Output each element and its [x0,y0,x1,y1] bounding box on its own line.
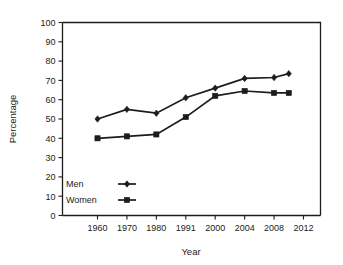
x-axis-title: Year [181,246,200,257]
data-point [271,90,276,95]
plot-frame [63,23,321,216]
legend-sample-marker-square [124,197,129,202]
data-point [242,75,247,81]
x-tick-label: 2004 [235,223,255,233]
data-point [242,88,247,93]
legend-label-women: Women [66,195,97,205]
y-tick-label: 20 [45,172,55,182]
data-point [154,110,159,116]
data-point [183,114,188,119]
y-axis-title: Percentage [7,95,18,144]
chart-canvas: 0102030405060708090100 19601970198019912… [0,0,343,265]
y-axis-ticks: 0102030405060708090100 [40,18,62,221]
y-tick-label: 30 [45,153,55,163]
x-tick-label: 2012 [293,223,313,233]
y-tick-label: 60 [45,95,55,105]
x-tick-label: 1970 [117,223,137,233]
data-point [183,95,188,101]
legend-label-men: Men [66,179,84,189]
data-point [213,93,218,98]
chart-legend: MenWomen [66,179,136,205]
data-point [286,90,291,95]
x-tick-label: 2000 [205,223,225,233]
x-tick-label: 2008 [264,223,284,233]
x-tick-label: 1991 [176,223,196,233]
data-point [124,134,129,139]
series-men [95,70,292,122]
data-point [213,85,218,91]
data-point [95,116,100,122]
data-point [271,74,276,80]
y-tick-label: 40 [45,134,55,144]
y-tick-label: 70 [45,76,55,86]
y-tick-label: 0 [50,211,55,221]
y-tick-label: 50 [45,114,55,124]
data-point [95,136,100,141]
data-point [154,132,159,137]
x-tick-label: 1980 [146,223,166,233]
data-point [286,70,291,76]
data-series-layer [95,70,292,140]
x-tick-label: 1960 [87,223,107,233]
y-tick-label: 10 [45,192,55,202]
y-tick-label: 80 [45,56,55,66]
series-women [95,88,291,140]
y-tick-label: 100 [40,18,55,28]
line-chart: 0102030405060708090100 19601970198019912… [0,0,343,265]
y-tick-label: 90 [45,37,55,47]
data-point [124,106,129,112]
x-axis-ticks: 19601970198019912000200420082012 [87,216,313,233]
legend-sample-marker-diamond [124,181,129,187]
